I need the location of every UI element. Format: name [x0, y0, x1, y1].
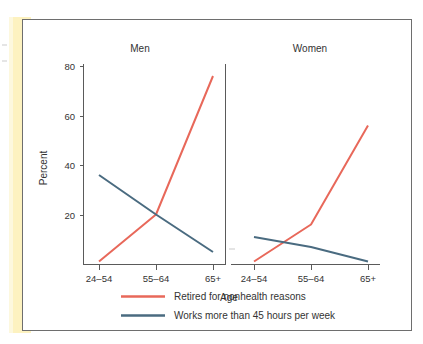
x-axis-ticks-men [100, 265, 214, 270]
y-tick-label-20: 20 [64, 210, 75, 221]
panel-title-men: Men [130, 43, 149, 54]
chart-card: Men Women 80 60 40 20 Percent [22, 19, 412, 331]
panel-title-women: Women [293, 43, 327, 54]
x-tick-label-women-65plus: 65+ [360, 273, 377, 284]
page-artifact-mark [2, 44, 7, 46]
y-axis-ticks [80, 67, 84, 216]
scan-speck [229, 248, 235, 250]
chart-svg: Men Women 80 60 40 20 Percent [23, 20, 413, 332]
x-tick-label-men-55-64: 55–64 [143, 273, 169, 284]
x-tick-label-men-24-54: 24–54 [86, 273, 112, 284]
series-line-men-works45 [99, 175, 213, 252]
y-tick-label-80: 80 [64, 61, 75, 72]
x-tick-label-women-24-54: 24–54 [241, 273, 267, 284]
chart-plot-area: Men Women 80 60 40 20 Percent [23, 20, 413, 332]
chart-legend: Retired for nonhealth reasons Works more… [121, 291, 336, 321]
page-artifact-mark [2, 60, 7, 62]
y-tick-label-40: 40 [64, 160, 75, 171]
y-tick-label-60: 60 [64, 111, 75, 122]
series-line-men-retired [99, 76, 213, 262]
x-tick-label-women-55-64: 55–64 [298, 273, 324, 284]
series-line-women-retired [254, 126, 368, 262]
x-axis-ticks-women [255, 265, 369, 270]
legend-label-retired: Retired for nonhealth reasons [174, 291, 306, 302]
y-axis-title: Percent [38, 151, 49, 186]
x-tick-label-men-65plus: 65+ [205, 273, 222, 284]
legend-label-works45: Works more than 45 hours per week [174, 310, 336, 321]
